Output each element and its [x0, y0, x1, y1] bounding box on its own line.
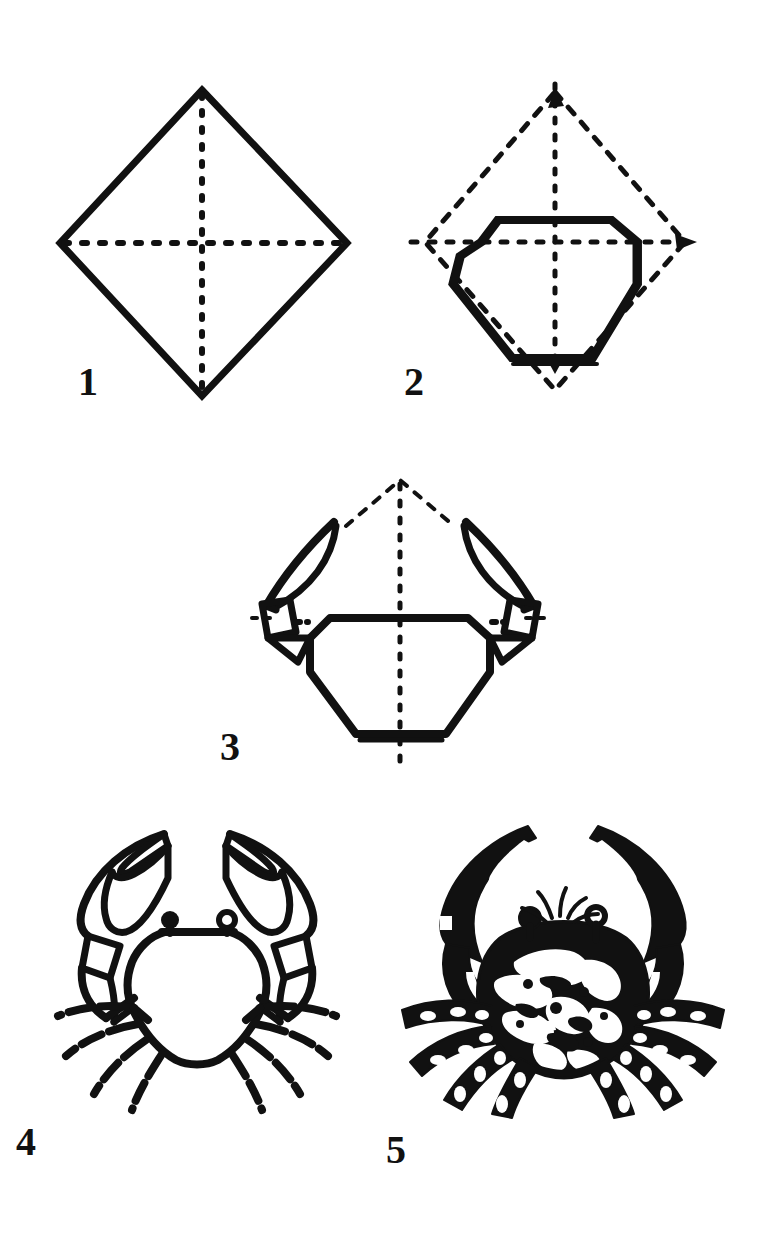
carapace-outline — [128, 932, 267, 1065]
right-claw-wrist — [274, 936, 312, 978]
step-1-drawing — [52, 78, 352, 398]
figure-step-3 — [240, 466, 560, 776]
step-3-drawing — [240, 466, 560, 776]
step-number-2: 2 — [404, 362, 424, 402]
left-claw-highlight-1 — [483, 898, 500, 941]
step-number-4: 4 — [16, 1122, 36, 1162]
left-leg-3 — [94, 1040, 146, 1094]
right-claw-arm-inner — [464, 526, 526, 608]
step-5-drawing — [388, 812, 738, 1122]
figure-step-1 — [52, 78, 352, 398]
step-2-drawing — [385, 68, 725, 408]
left-claw-wrist — [82, 936, 120, 978]
right-claw-highlight-1 — [626, 898, 643, 941]
step-number-1: 1 — [78, 362, 98, 402]
fold-arrow-right — [675, 234, 697, 250]
figure-step-5 — [388, 812, 738, 1122]
step-number-3: 3 — [220, 727, 240, 767]
diagram-page: 1 2 — [0, 0, 771, 1234]
right-leg-4 — [232, 1054, 262, 1110]
left-claw-arm-inner — [274, 526, 336, 608]
left-shoulder-flap-crease — [268, 638, 310, 662]
left-claw-outer — [81, 834, 164, 936]
right-leg-3 — [248, 1040, 300, 1094]
left-claw-mark — [440, 916, 452, 930]
right-shoulder-flap-crease — [490, 638, 532, 662]
left-leg-4 — [132, 1054, 162, 1110]
step-4-drawing — [22, 812, 372, 1122]
figure-step-2 — [385, 68, 725, 408]
figure-step-4 — [22, 812, 372, 1122]
right-claw-outer — [230, 834, 313, 936]
step-number-5: 5 — [386, 1130, 406, 1170]
